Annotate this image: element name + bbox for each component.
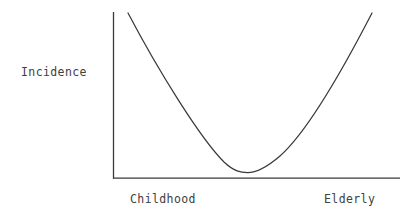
incidence-curve <box>128 13 372 173</box>
plot-area <box>0 0 412 216</box>
x-axis-label-elderly: Elderly <box>324 193 375 206</box>
y-axis-label: Incidence <box>21 66 87 79</box>
incidence-vs-age-figure: Incidence Childhood Elderly <box>0 0 412 216</box>
x-axis-label-childhood: Childhood <box>130 193 196 206</box>
